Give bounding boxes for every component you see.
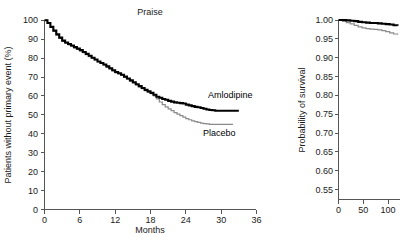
y-tick: 1.00 [315,15,338,25]
x-tick-label: 18 [145,215,155,225]
y-tick-label: 0.60 [315,166,333,176]
y-tick: 90 [28,34,45,44]
y-tick-label: 60 [28,91,38,101]
left-panel-y-ticks: 0 10 20 30 40 50 60 70 80 90 100 [23,15,45,214]
left-panel-praise: Praise Patients without primary event (%… [3,7,262,235]
y-tick-label: 1.00 [315,15,333,25]
y-tick-label: 0.55 [315,185,333,195]
x-tick: 24 [181,210,191,226]
y-tick: 0.75 [315,109,338,119]
x-tick: 12 [110,210,120,226]
y-tick: 70 [28,72,45,82]
series-label-placebo: Placebo [203,128,236,138]
y-tick: 0.80 [315,90,338,100]
y-tick: 60 [28,91,45,101]
y-tick-label: 0.65 [315,147,333,157]
y-tick: 40 [28,129,45,139]
y-tick: 0.95 [315,34,338,44]
x-tick-label: 0 [42,215,47,225]
x-tick: 18 [145,210,155,226]
y-tick: 0.55 [315,185,338,195]
y-tick-label: 20 [28,167,38,177]
y-tick: 0.70 [315,128,338,138]
y-tick-label: 40 [28,129,38,139]
x-tick-label: 0 [336,205,341,215]
left-panel-x-ticks: 0 6 12 18 24 30 36 [42,210,262,226]
right-panel-y-ticks: 0.55 0.60 0.65 0.70 0.75 0.80 0.85 0.90 … [315,15,338,195]
y-tick-label: 70 [28,72,38,82]
x-tick-label: 24 [181,215,191,225]
x-tick: 50 [358,200,368,216]
x-tick-label: 6 [77,215,82,225]
y-tick-label: 30 [28,148,38,158]
y-tick: 0.60 [315,166,338,176]
y-tick-label: 50 [28,110,38,120]
y-tick: 30 [28,148,45,158]
y-tick-label: 80 [28,53,38,63]
right-panel-survival: Probability of survival 0.55 0.60 0.65 0… [297,15,400,215]
right-panel-y-axis-title: Probability of survival [297,67,307,152]
y-tick-label: 0.75 [315,109,333,119]
y-tick-label: 90 [28,34,38,44]
right-panel-x-ticks: 0 50 100 [336,200,396,216]
survival-curves-figure: Praise Patients without primary event (%… [0,0,404,236]
series-label-amlodipine: Amlodipine [208,90,253,100]
y-tick-label: 0.85 [315,72,333,82]
y-tick-label: 0.70 [315,128,333,138]
y-tick-label: 100 [23,15,38,25]
x-tick-label: 100 [381,205,396,215]
x-tick: 0 [42,210,47,226]
x-tick-label: 12 [110,215,120,225]
y-tick: 100 [23,15,45,25]
x-tick: 6 [77,210,82,226]
y-tick: 0 [33,205,45,215]
y-tick: 20 [28,167,45,177]
y-tick-label: 0 [33,205,38,215]
x-tick-label: 36 [251,215,261,225]
left-panel-title: Praise [137,7,163,17]
y-tick: 50 [28,110,45,120]
y-tick: 80 [28,53,45,63]
x-tick-label: 30 [216,215,226,225]
left-panel-x-axis-title: Months [135,225,165,235]
y-tick-label: 0.90 [315,53,333,63]
x-tick: 0 [336,200,341,216]
left-panel-y-axis-title: Patients without primary event (%) [3,46,13,183]
y-tick: 0.85 [315,72,338,82]
y-tick-label: 10 [28,186,38,196]
x-tick: 30 [216,210,226,226]
y-tick-label: 0.80 [315,90,333,100]
x-tick: 36 [251,210,261,226]
y-tick-label: 0.95 [315,34,333,44]
y-tick: 0.90 [315,53,338,63]
x-tick: 100 [381,200,396,216]
y-tick: 0.65 [315,147,338,157]
x-tick-label: 50 [358,205,368,215]
y-tick: 10 [28,186,45,196]
